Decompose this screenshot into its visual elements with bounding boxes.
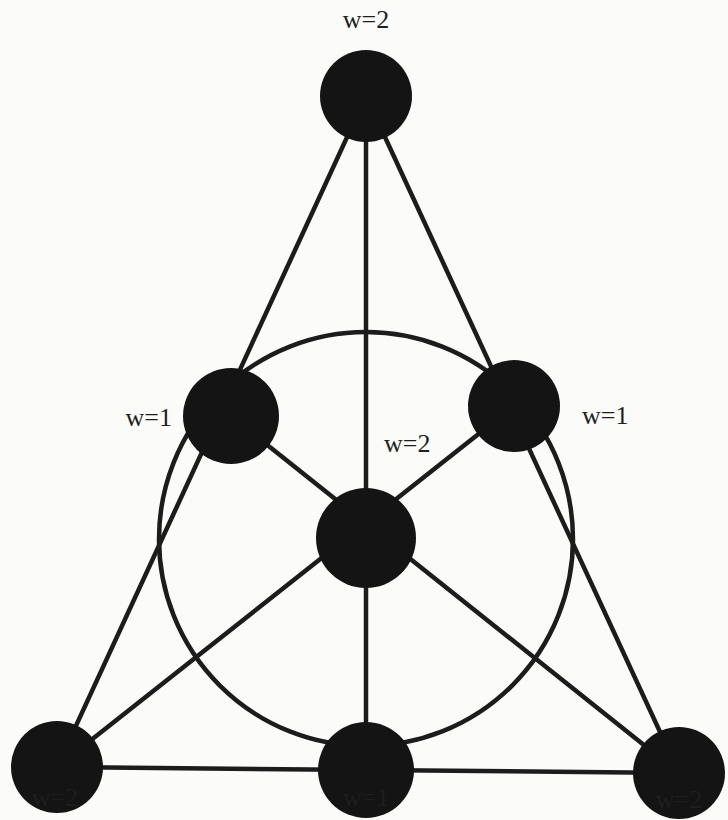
node-top [320,50,412,142]
diagram-svg: w=2w=1w=1w=2w=2w=1w=2 [0,0,728,820]
node-label-bottom-mid: w=1 [343,783,389,812]
node-center [316,488,416,588]
line-median-left [231,416,679,773]
node-label-center: w=2 [384,429,430,458]
node-label-bottom-left: w=2 [32,783,78,812]
fano-plane-diagram: w=2w=1w=1w=2w=2w=1w=2 [0,0,728,820]
node-right-mid [468,360,560,452]
node-label-right-mid: w=1 [582,401,628,430]
node-label-bottom-right: w=2 [656,785,702,814]
node-label-left-mid: w=1 [126,403,172,432]
node-label-top: w=2 [343,5,389,34]
node-left-mid [183,368,279,464]
edges-group [57,96,679,773]
